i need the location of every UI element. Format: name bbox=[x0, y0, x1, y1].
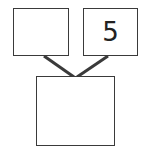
connector-left bbox=[44, 56, 74, 77]
connector-right bbox=[77, 56, 108, 77]
left-part-box[interactable] bbox=[13, 8, 69, 56]
whole-box[interactable] bbox=[36, 76, 115, 146]
right-part-box[interactable]: 5 bbox=[83, 8, 138, 56]
right-part-value: 5 bbox=[102, 17, 119, 47]
